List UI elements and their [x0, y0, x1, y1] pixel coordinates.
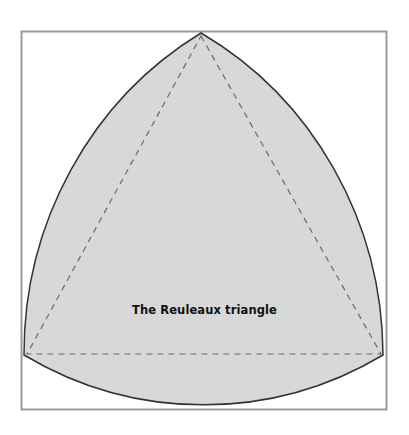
diagram-title: The Reuleaux triangle	[0, 303, 409, 317]
reuleaux-shape	[24, 33, 383, 405]
reuleaux-diagram	[0, 0, 409, 435]
